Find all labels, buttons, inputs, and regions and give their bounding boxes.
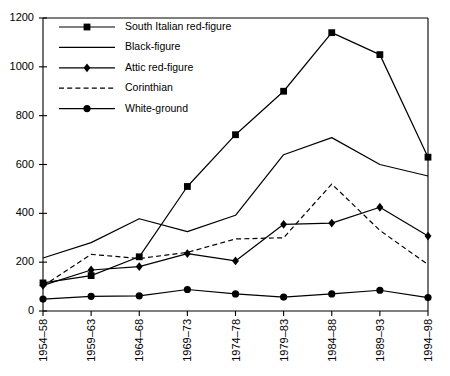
chart-figure: 020040060080010001200 1954–581959–631964…: [0, 0, 450, 376]
series-0-marker: [136, 253, 143, 260]
x-tick-label: 1969–73: [181, 319, 193, 362]
x-tick-label: 1979–83: [278, 319, 290, 362]
legend-label-2: Attic red-figure: [125, 61, 193, 73]
series-4-marker: [136, 292, 143, 299]
axes: [43, 18, 428, 311]
series-0-marker: [232, 131, 239, 138]
series-2-marker: [425, 232, 432, 241]
y-tick-label: 1000: [0, 60, 34, 72]
series-4-marker: [88, 293, 95, 300]
x-tick-label: 1989–93: [374, 319, 386, 362]
series-0-marker: [184, 183, 191, 190]
series-line-2: [43, 207, 428, 285]
y-tick-label: 600: [0, 158, 34, 170]
legend-marker-2: [84, 63, 91, 72]
x-tick-label: 1954–58: [37, 319, 49, 362]
series-4-marker: [376, 287, 383, 294]
y-tick-label: 0: [0, 304, 34, 316]
series-line-0: [43, 33, 428, 283]
y-tick-label: 800: [0, 109, 34, 121]
series-0-marker: [376, 51, 383, 58]
legend-sample-lines: [59, 24, 115, 113]
series-4-marker: [424, 294, 431, 301]
y-tick-label: 1200: [0, 11, 34, 23]
series-2-marker: [376, 203, 383, 212]
series-0-marker: [425, 154, 432, 161]
series-line-1: [43, 138, 428, 258]
series-0-marker: [328, 29, 335, 36]
series-4-marker: [184, 286, 191, 293]
x-tick-marks: [43, 311, 428, 316]
series-2-marker: [232, 257, 239, 266]
series-2-marker: [328, 219, 335, 228]
legend-marker-4: [83, 105, 90, 112]
legend-label-3: Corinthian: [125, 81, 173, 93]
legend-marker-0: [84, 24, 91, 31]
series-4-marker: [232, 290, 239, 297]
y-tick-label: 400: [0, 206, 34, 218]
x-tick-label: 1994–98: [422, 319, 434, 362]
x-tick-label: 1984–88: [326, 319, 338, 362]
x-tick-label: 1974–78: [230, 319, 242, 362]
series-4-marker: [280, 293, 287, 300]
series-2-marker: [136, 262, 143, 271]
series-4-marker: [328, 290, 335, 297]
series-2-marker: [280, 220, 287, 229]
x-tick-label: 1964–68: [133, 319, 145, 362]
y-tick-label: 200: [0, 255, 34, 267]
x-tick-label: 1959–63: [85, 319, 97, 362]
series-0-marker: [280, 88, 287, 95]
legend-label-0: South Italian red-figure: [125, 20, 231, 32]
series-4-marker: [39, 295, 46, 302]
data-series-layer: [39, 29, 431, 302]
series-2-marker: [184, 249, 191, 258]
legend-label-4: White-ground: [125, 102, 188, 114]
legend-label-1: Black-figure: [125, 40, 180, 52]
series-line-3: [43, 184, 428, 286]
